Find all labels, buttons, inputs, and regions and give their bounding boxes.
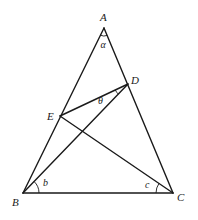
angle-arc-b bbox=[34, 182, 39, 194]
label-point-e: E bbox=[46, 110, 54, 122]
segment-ab bbox=[23, 28, 104, 193]
label-point-a: A bbox=[99, 11, 107, 23]
label-angle-c: c bbox=[145, 179, 150, 190]
diagram-svg: A B C D E α b c θ bbox=[0, 0, 198, 220]
triangle-diagram: A B C D E α b c θ bbox=[0, 0, 198, 220]
angle-arc-theta bbox=[115, 90, 118, 94]
label-angle-alpha: α bbox=[101, 39, 107, 50]
segment-bd bbox=[23, 84, 128, 193]
angle-arc-c bbox=[156, 183, 159, 193]
segment-ce bbox=[60, 116, 173, 193]
label-angle-theta: θ bbox=[98, 95, 103, 106]
label-point-d: D bbox=[130, 74, 139, 86]
angle-arc-alpha bbox=[101, 35, 108, 36]
label-point-b: B bbox=[12, 196, 19, 208]
label-angle-b: b bbox=[43, 177, 48, 188]
label-point-c: C bbox=[177, 191, 185, 203]
segment-ac bbox=[104, 28, 173, 193]
segment-de bbox=[60, 84, 128, 116]
